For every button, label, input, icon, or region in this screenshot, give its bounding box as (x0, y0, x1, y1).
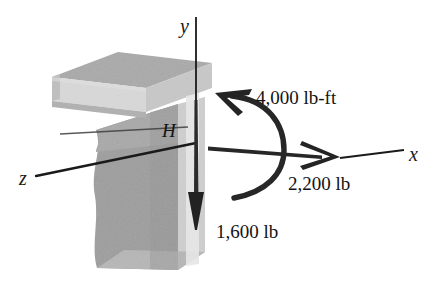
x-axis-label: x (408, 143, 418, 165)
structure-solid (52, 52, 212, 270)
point-h-label: H (161, 120, 177, 141)
horizontal-force-shaft (208, 147, 322, 160)
moment-arrow-head (215, 89, 252, 116)
y-axis-label: y (178, 15, 189, 38)
vertical-force-label: 1,600 lb (216, 221, 278, 242)
moment-label: 4,000 lb-ft (256, 87, 337, 108)
z-axis-label: z (18, 167, 27, 189)
free-body-diagram: 1,600 lb 2,200 lb 4,000 lb-ft y x z H (0, 0, 430, 290)
diagram-canvas: 1,600 lb 2,200 lb 4,000 lb-ft y x z H (0, 0, 430, 290)
x-axis-line (340, 150, 404, 158)
horizontal-force-label: 2,200 lb (288, 173, 350, 194)
